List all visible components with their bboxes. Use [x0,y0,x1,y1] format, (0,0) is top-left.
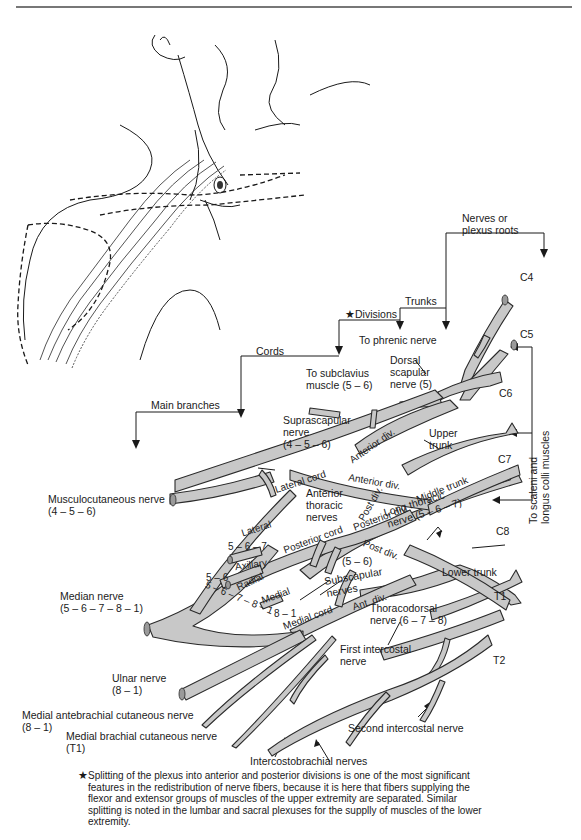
label-nerves-or-plexus-roots: Nerves or plexus roots [462,212,519,236]
label-anterior-thoracic: Anterior thoracic nerves [306,487,343,523]
label-main-branches: Main branches [151,399,220,411]
label-musculocutaneous: Musculocutaneous nerve (4 – 5 – 6) [48,493,165,517]
label-trunks: Trunks [405,295,437,307]
label-cords: Cords [256,345,284,357]
anatomy-sketch [23,35,370,368]
label-medial-roots: 8 – 1 [274,608,296,620]
footnote: ★ Splitting of the plexus into anterior … [88,770,488,828]
label-phrenic: To phrenic nerve [359,334,437,346]
root-c4: C4 [520,271,533,283]
label-intercostobrachial: Intercostobrachial nerves [250,755,367,767]
label-lower-trunk: Lower trunk [442,566,497,578]
label-second-intercostal: Second intercostal nerve [348,722,464,734]
label-dorsal-scapular: Dorsal scapular nerve (5) [390,354,432,390]
root-c8: C8 [496,525,509,537]
label-scaleni: To scaleni and longus colli muscles [527,431,551,524]
star-icon: ★ [78,770,88,782]
label-subscapular-roots: (5 – 6) [342,555,372,567]
root-t2: T2 [493,654,505,666]
root-c5: C5 [520,328,533,340]
label-median: Median nerve (5 – 6 – 7 – 8 – 1) [60,590,143,614]
label-suprascapular: Suprascapular nerve (4 – 5 – 6) [283,414,351,450]
root-t1: T1 [494,590,506,602]
footnote-text: Splitting of the plexus into anterior an… [88,770,482,827]
label-medial-brachial: Medial brachial cutaneous nerve (T1) [66,730,217,754]
label-lateral-roots: 5 – 6 – 7 [228,541,267,553]
root-c6: C6 [499,387,512,399]
label-divisions: ★Divisions [345,308,397,320]
label-first-intercostal: First intercostal nerve [340,643,411,667]
label-ulnar: Ulnar nerve (8 – 1) [112,672,166,696]
root-c7: C7 [498,453,511,465]
label-thoracodorsal: Thoracodorsal nerve (6 – 7 – 8) [370,602,447,626]
label-upper-trunk: Upper trunk [429,427,458,451]
label-subclavius: To subclavius muscle (5 – 6) [306,367,373,391]
